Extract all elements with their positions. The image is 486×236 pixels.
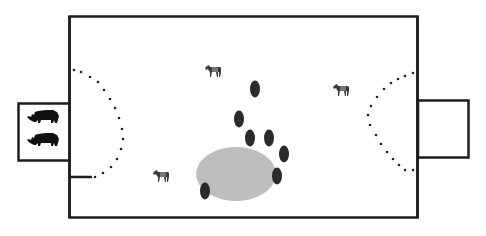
zebra-icon bbox=[205, 65, 221, 77]
enclosure-diagram bbox=[0, 0, 486, 236]
dark-oval bbox=[272, 168, 282, 185]
dark-oval bbox=[279, 146, 289, 163]
right-holding-pen bbox=[418, 101, 469, 158]
dark-oval bbox=[200, 183, 210, 200]
zebra-icon bbox=[333, 84, 349, 96]
dark-oval bbox=[264, 130, 274, 147]
right-dotted-boundary bbox=[367, 72, 415, 172]
dark-oval bbox=[245, 130, 255, 147]
dark-oval bbox=[234, 111, 244, 128]
zebra-icon bbox=[153, 170, 169, 182]
left-dotted-boundary bbox=[73, 69, 125, 179]
dark-oval bbox=[250, 81, 260, 98]
